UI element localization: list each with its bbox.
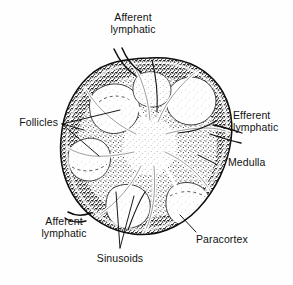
label-sinusoids: Sinusoids — [87, 253, 153, 265]
label-efferent-lymphatic: Efferent lymphatic — [233, 110, 293, 133]
follicle-upper-right-core — [170, 81, 212, 121]
label-paracortex: Paracortex — [196, 234, 276, 246]
label-afferent-lymphatic-bottom: Afferent lymphatic — [28, 216, 100, 239]
follicle-upper-left — [89, 84, 139, 134]
label-medulla: Medulla — [228, 157, 288, 169]
follicle-bottom-right — [166, 183, 210, 226]
follicle-left — [68, 138, 111, 181]
label-follicles: Follicles — [2, 117, 58, 129]
label-afferent-lymphatic-top: Afferent lymphatic — [96, 12, 170, 35]
lymph-node-figure: Afferent lymphatic Follicles Efferent ly… — [0, 0, 293, 285]
